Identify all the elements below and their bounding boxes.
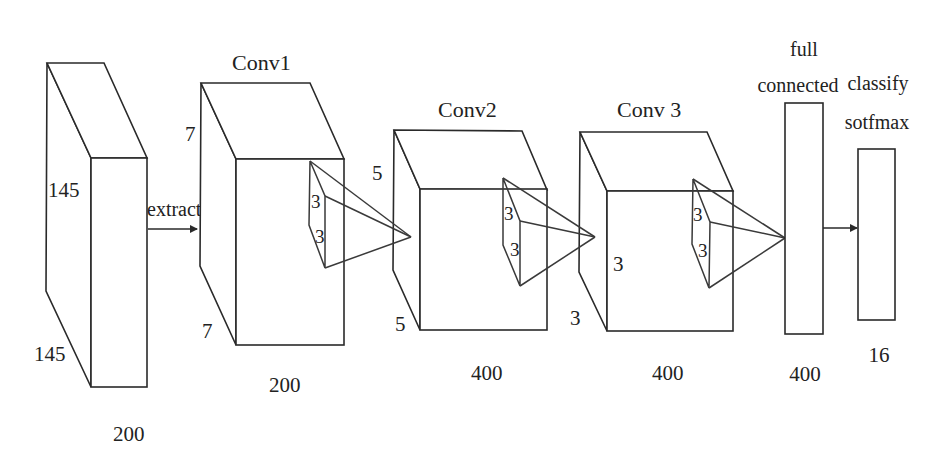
conv2-front-face xyxy=(420,189,547,330)
conv1-block: Conv1 7 7 200 xyxy=(185,50,344,397)
conv1-kernel-label-a: 3 xyxy=(311,191,321,212)
softmax-box xyxy=(858,149,895,320)
conv2-bottom-label: 5 xyxy=(395,312,406,336)
fc-size-label: 400 xyxy=(789,362,821,386)
input-block: 145 145 200 xyxy=(34,63,147,446)
conv3-front-face xyxy=(607,191,733,331)
softmax-size-label: 16 xyxy=(869,343,890,367)
conv3-title: Conv 3 xyxy=(617,97,681,122)
extract-label: extract xyxy=(147,198,202,220)
input-width-label: 200 xyxy=(113,422,145,446)
conv2-title: Conv2 xyxy=(438,97,497,122)
conv3-bottom-label: 3 xyxy=(570,306,581,330)
fc-title-line1: full xyxy=(790,38,818,60)
conv1-width-label: 200 xyxy=(269,373,301,397)
conv1-front-face xyxy=(236,159,344,345)
softmax-layer: classify sotfmax 16 xyxy=(845,72,909,367)
conv1-title: Conv1 xyxy=(232,50,291,75)
conv3-kernel-label-a: 3 xyxy=(693,204,703,225)
conv3-block: Conv 3 3 3 400 xyxy=(570,97,733,385)
conv1-top-label: 7 xyxy=(185,122,196,146)
fc-layer: full connected 400 xyxy=(757,38,838,386)
conv3-side-label: 3 xyxy=(613,252,624,276)
conv1-kernel-label-b: 3 xyxy=(315,226,325,247)
conv3-kernel-label-b: 3 xyxy=(698,240,708,261)
fc-title-line2: connected xyxy=(757,74,838,96)
conv2-top-label: 5 xyxy=(372,161,383,185)
extract-arrow: extract xyxy=(147,198,202,229)
conv2-width-label: 400 xyxy=(471,361,503,385)
softmax-title-line1: classify xyxy=(847,72,908,95)
conv2-top-face xyxy=(394,130,547,190)
conv2-kernel-label-a: 3 xyxy=(504,203,514,224)
conv2-kernel-label-b: 3 xyxy=(510,239,520,260)
conv3-width-label: 400 xyxy=(652,361,684,385)
conv1-bottom-label: 7 xyxy=(202,319,213,343)
fc-box xyxy=(785,103,823,334)
softmax-title-line2: sotfmax xyxy=(845,111,909,133)
input-depth-label: 145 xyxy=(34,342,66,366)
input-front-face xyxy=(91,158,147,387)
input-height-label: 145 xyxy=(48,178,80,202)
cnn-diagram: 145 145 200 extract Conv1 7 7 200 Conv2 … xyxy=(0,0,943,470)
conv3-top-face xyxy=(580,132,733,191)
